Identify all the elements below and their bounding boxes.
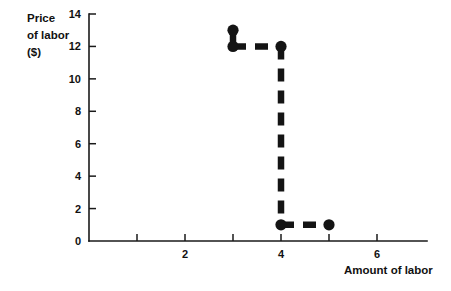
y-axis-ticks [89,14,96,209]
y-axis-tick-labels: 02468101214 [69,8,82,247]
y-axis-title-line-2: of labor [27,29,70,41]
x-axis-group: 246 [89,234,427,260]
x-axis-title: Amount of labor [344,264,433,276]
x-axis-ticks [137,234,377,241]
data-point-marginal-factor-cost-1 [227,41,238,52]
y-tick-label-8: 8 [75,105,81,117]
x-tick-label-6: 6 [374,248,380,260]
y-axis-title: Price of labor ($) [27,12,70,58]
data-point-marginal-factor-cost-4 [323,219,334,230]
data-point-marginal-factor-cost-0 [227,25,238,36]
chart-figure: 02468101214 246 Price of labor ($) Amoun… [0,0,451,291]
y-axis-group: 02468101214 [69,8,96,247]
y-tick-label-2: 2 [75,203,81,215]
x-axis-tick-labels: 246 [182,248,380,260]
data-series-layer [233,30,329,225]
y-axis-title-line-1: Price [27,12,55,24]
x-tick-label-2: 2 [182,248,188,260]
y-tick-label-12: 12 [69,40,81,52]
data-point-marginal-factor-cost-2 [275,41,286,52]
x-tick-label-4: 4 [278,248,285,260]
y-tick-label-14: 14 [69,8,82,20]
y-tick-label-6: 6 [75,138,81,150]
y-tick-label-0: 0 [75,235,81,247]
chart-svg: 02468101214 246 Price of labor ($) Amoun… [0,0,451,291]
y-tick-label-4: 4 [75,170,82,182]
y-tick-label-10: 10 [69,73,81,85]
data-point-marginal-factor-cost-3 [275,219,286,230]
y-axis-title-line-3: ($) [27,46,41,58]
